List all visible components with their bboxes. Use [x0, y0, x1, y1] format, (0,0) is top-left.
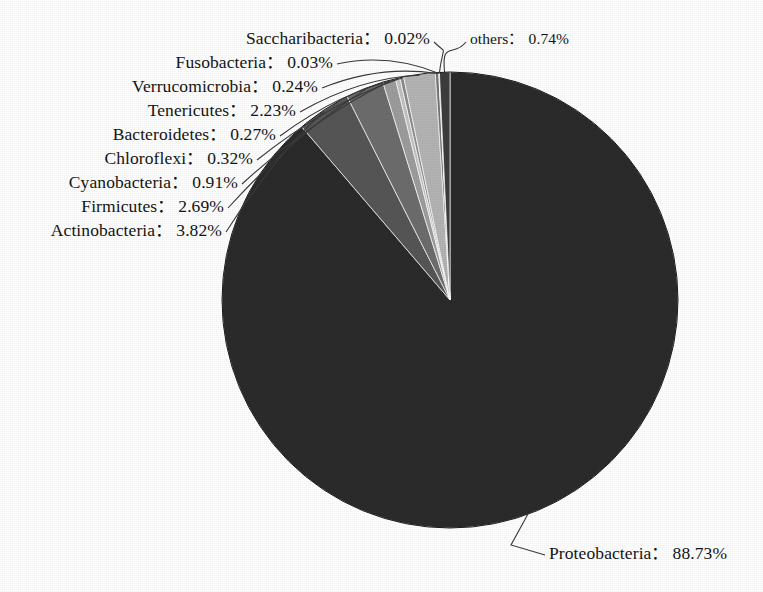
- leader-line-proteobacteria: [511, 513, 545, 555]
- pie-label-separator: ：: [155, 220, 173, 240]
- pie-label-text: Firmicutes: [81, 196, 157, 216]
- pie-label-chloroflexi: Chloroflexi：0.32%: [104, 150, 253, 168]
- pie-label-separator: ：: [209, 124, 227, 144]
- pie-label-text: Proteobacteria: [549, 543, 651, 563]
- pie-label-value: 0.02%: [381, 28, 430, 48]
- pie-label-bacteroidetes: Bacteroidetes：0.27%: [113, 126, 276, 144]
- pie-label-saccharibacteria: Saccharibacteria：0.02%: [246, 30, 430, 48]
- pie-label-value: 0.03%: [284, 52, 333, 72]
- pie-label-value: 3.82%: [173, 220, 222, 240]
- pie-label-separator: ：: [186, 148, 204, 168]
- pie-label-text: Fusobacteria: [176, 52, 267, 72]
- pie-label-separator: ：: [508, 30, 525, 47]
- pie-label-separator: ：: [651, 543, 669, 563]
- pie-label-tenericutes: Tenericutes：2.23%: [148, 102, 296, 120]
- pie-label-value: 0.24%: [269, 76, 318, 96]
- pie-chart-svg: [0, 0, 763, 592]
- leader-line-saccharibacteria: [434, 42, 443, 73]
- pie-label-text: Chloroflexi: [104, 148, 186, 168]
- pie-label-text: Bacteroidetes: [113, 124, 210, 144]
- pie-label-others: others：0.74%: [470, 31, 569, 47]
- pie-label-value: 0.74%: [526, 30, 570, 47]
- pie-label-cyanobacteria: Cyanobacteria：0.91%: [69, 174, 238, 192]
- pie-label-text: others: [470, 30, 508, 47]
- pie-slices-group: [222, 72, 678, 528]
- pie-label-text: Verrucomicrobia: [132, 76, 251, 96]
- pie-label-value: 2.23%: [247, 100, 296, 120]
- pie-label-proteobacteria: Proteobacteria：88.73%: [549, 545, 727, 563]
- pie-label-actinobacteria: Actinobacteria：3.82%: [51, 222, 222, 240]
- pie-label-value: 2.69%: [175, 196, 224, 216]
- pie-label-separator: ：: [363, 28, 381, 48]
- pie-label-text: Tenericutes: [148, 100, 230, 120]
- pie-label-separator: ：: [229, 100, 247, 120]
- pie-chart-figure: Saccharibacteria：0.02%others：0.74%Fusoba…: [0, 0, 763, 592]
- pie-label-value: 0.27%: [227, 124, 276, 144]
- pie-label-text: Cyanobacteria: [69, 172, 171, 192]
- pie-label-separator: ：: [251, 76, 269, 96]
- pie-label-separator: ：: [266, 52, 284, 72]
- pie-label-separator: ：: [171, 172, 189, 192]
- pie-label-text: Actinobacteria: [51, 220, 155, 240]
- leader-line-others: [444, 42, 466, 73]
- pie-label-value: 88.73%: [670, 543, 728, 563]
- pie-label-separator: ：: [157, 196, 175, 216]
- pie-label-fusobacteria: Fusobacteria：0.03%: [176, 54, 333, 72]
- pie-label-value: 0.91%: [189, 172, 238, 192]
- pie-label-verrucomicrobia: Verrucomicrobia：0.24%: [132, 78, 318, 96]
- pie-label-text: Saccharibacteria: [246, 28, 363, 48]
- pie-label-value: 0.32%: [204, 148, 253, 168]
- pie-label-firmicutes: Firmicutes：2.69%: [81, 198, 224, 216]
